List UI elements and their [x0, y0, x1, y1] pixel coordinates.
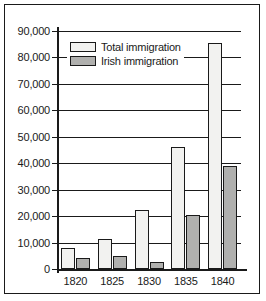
y-axis-tick — [52, 57, 57, 58]
bar-irish-immigration-1820 — [76, 258, 90, 269]
y-axis-tick-label: 30,000 — [18, 184, 50, 196]
y-axis-tick — [52, 243, 57, 244]
bar-irish-immigration-1830 — [150, 262, 164, 269]
x-axis-tick-label: 1825 — [100, 275, 124, 287]
bar-total-immigration-1825 — [98, 239, 112, 269]
bar-total-immigration-1820 — [61, 248, 75, 269]
y-axis-tick — [52, 31, 57, 32]
chart-legend: Total immigration Irish immigration — [67, 38, 184, 71]
y-axis-tick — [52, 216, 57, 217]
bar-irish-immigration-1835 — [186, 215, 200, 269]
y-axis-tick-label: 0 — [44, 263, 50, 275]
y-axis-tick-label: 80,000 — [18, 51, 50, 63]
y-axis-tick-label: 50,000 — [18, 131, 50, 143]
bar-irish-immigration-1840 — [223, 166, 237, 269]
chart-figure: 010,00020,00030,00040,00050,00060,00070,… — [4, 4, 260, 294]
y-axis-tick-label: 60,000 — [18, 104, 50, 116]
legend-swatch-irish-immigration — [70, 56, 96, 66]
y-axis-tick — [52, 269, 57, 270]
y-axis-tick — [52, 190, 57, 191]
y-axis-tick-label: 20,000 — [18, 210, 50, 222]
legend-item-irish-immigration: Irish immigration — [70, 54, 181, 67]
y-axis-tick-label: 40,000 — [18, 157, 50, 169]
legend-swatch-total-immigration — [70, 42, 96, 52]
y-axis-tick-label: 90,000 — [18, 25, 50, 37]
y-axis-tick — [52, 110, 57, 111]
gridline — [57, 31, 241, 32]
x-axis-tick-label: 1830 — [137, 275, 161, 287]
x-axis-tick-label: 1840 — [211, 275, 235, 287]
y-axis-tick — [52, 163, 57, 164]
y-axis-tick-label: 70,000 — [18, 78, 50, 90]
bar-total-immigration-1835 — [171, 147, 185, 269]
legend-item-total-immigration: Total immigration — [70, 40, 181, 53]
x-axis-line — [57, 269, 247, 271]
y-axis-tick — [52, 137, 57, 138]
x-axis-tick-label: 1820 — [64, 275, 88, 287]
bar-irish-immigration-1825 — [113, 256, 127, 269]
bar-total-immigration-1840 — [208, 43, 222, 269]
x-axis-tick-label: 1835 — [174, 275, 198, 287]
bar-total-immigration-1830 — [135, 210, 149, 270]
legend-label-irish-immigration: Irish immigration — [101, 55, 178, 67]
legend-label-total-immigration: Total immigration — [101, 41, 181, 53]
y-axis-tick-label: 10,000 — [18, 237, 50, 249]
y-axis-tick — [52, 84, 57, 85]
